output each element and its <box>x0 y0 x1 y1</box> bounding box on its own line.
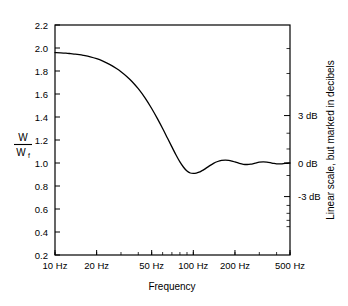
right-tick-label: 3 dB <box>298 110 318 121</box>
y-axis-title-numerator: W <box>18 132 28 143</box>
y-tick-label: 0.4 <box>35 227 48 238</box>
x-tick-label: 100 Hz <box>178 260 208 271</box>
y-axis-ticks <box>55 25 60 255</box>
x-tick-label: 200 Hz <box>220 260 250 271</box>
y-axis-title-denominator: W <box>16 147 26 158</box>
plot-frame <box>55 25 290 255</box>
y-tick-label: 2.2 <box>35 20 48 31</box>
x-axis-tick-labels: 10 Hz20 Hz50 Hz100 Hz200 Hz500 Hz <box>43 260 306 271</box>
figure-container: 0.20.40.60.81.01.21.41.61.82.02.2 10 Hz2… <box>0 0 348 306</box>
x-tick-label: 20 Hz <box>84 260 109 271</box>
right-axis-tick-labels: 3 dB0 dB-3 dB <box>298 110 321 202</box>
y-tick-label: 0.2 <box>35 250 48 261</box>
y-tick-label: 0.8 <box>35 181 48 192</box>
right-axis-ticks <box>284 116 290 197</box>
y-tick-label: 0.6 <box>35 204 48 215</box>
y-tick-label: 1.2 <box>35 135 48 146</box>
x-tick-label: 10 Hz <box>43 260 68 271</box>
right-tick-label: 0 dB <box>298 158 318 169</box>
y-tick-label: 1.8 <box>35 66 48 77</box>
y-axis-title-denominator-subscript: f <box>28 152 30 159</box>
x-tick-label: 500 Hz <box>275 260 305 271</box>
right-tick-label: -3 dB <box>298 191 321 202</box>
y-axis-tick-labels: 0.20.40.60.81.01.21.41.61.82.02.2 <box>35 20 48 261</box>
y-tick-label: 1.4 <box>35 112 48 123</box>
y-axis-title-fraction: W W f <box>14 132 32 159</box>
x-axis-title: Frequency <box>148 281 195 292</box>
y-tick-label: 2.0 <box>35 43 48 54</box>
chart-svg: 0.20.40.60.81.01.21.41.61.82.02.2 10 Hz2… <box>0 0 348 306</box>
right-axis-title: Linear scale, but marked in decibels <box>325 60 336 220</box>
y-tick-label: 1.0 <box>35 158 48 169</box>
y-tick-label: 1.6 <box>35 89 48 100</box>
data-curve-wwf <box>55 53 290 174</box>
x-tick-label: 50 Hz <box>139 260 164 271</box>
x-axis-ticks <box>55 250 290 255</box>
